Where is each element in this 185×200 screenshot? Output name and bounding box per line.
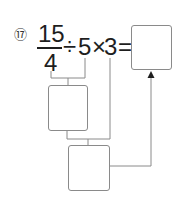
- answer-box-final[interactable]: [131, 25, 172, 70]
- answer-box-step1[interactable]: [48, 85, 88, 131]
- arrow-up-icon: [148, 71, 155, 78]
- answer-box-step2[interactable]: [68, 145, 110, 191]
